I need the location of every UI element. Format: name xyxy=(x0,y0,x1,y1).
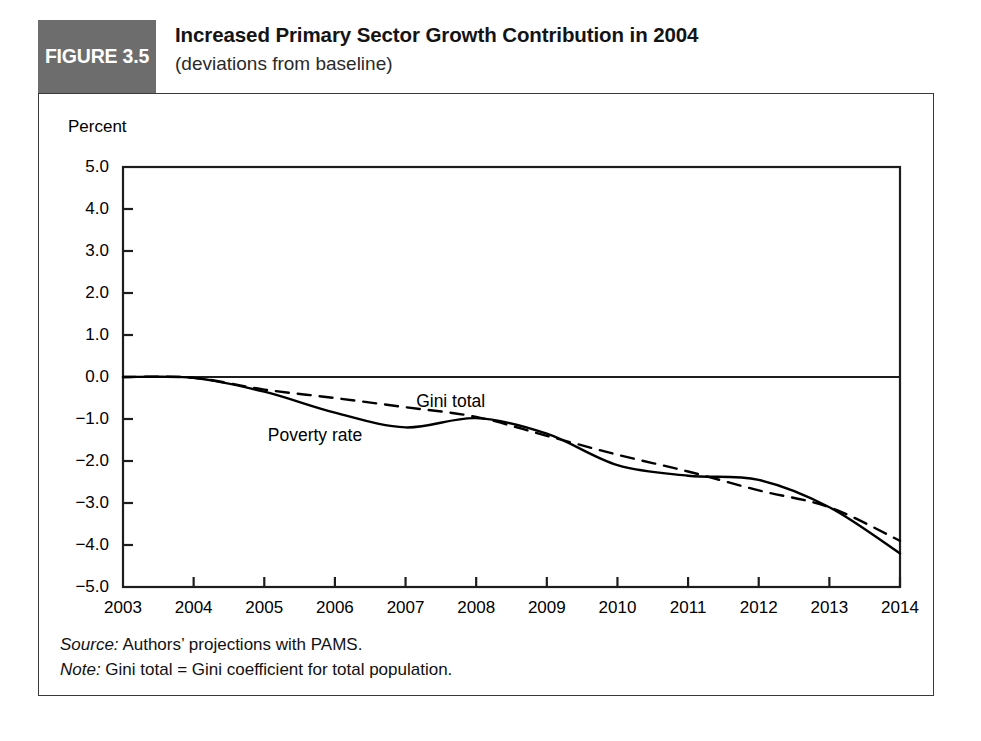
source-line: Source: Authors’ projections with PAMS. xyxy=(60,632,890,657)
x-tick-label: 2014 xyxy=(881,598,919,617)
source-text: Authors’ projections with PAMS. xyxy=(119,635,363,654)
x-tick-label: 2012 xyxy=(740,598,778,617)
series-line-gini-total xyxy=(123,377,900,541)
figure-footnotes: Source: Authors’ projections with PAMS. … xyxy=(60,632,890,682)
y-tick-label: −3.0 xyxy=(75,493,109,512)
y-tick-label: 4.0 xyxy=(85,199,109,218)
line-chart: 5.04.03.02.01.00.0−1.0−2.0−3.0−4.0−5.0 2… xyxy=(38,93,934,696)
x-tick-label: 2009 xyxy=(528,598,566,617)
x-tick-label: 2010 xyxy=(599,598,637,617)
series-label-gini-total: Gini total xyxy=(416,391,485,411)
x-tick-label: 2007 xyxy=(387,598,425,617)
x-axis-ticks: 2003200420052006200720082009201020112012… xyxy=(104,577,919,617)
note-line: Note: Gini total = Gini coefficient for … xyxy=(60,657,890,682)
y-tick-label: −4.0 xyxy=(75,535,109,554)
x-tick-label: 2006 xyxy=(316,598,354,617)
y-tick-label: 5.0 xyxy=(85,157,109,176)
series-line-poverty-rate xyxy=(123,377,900,554)
figure-header: FIGURE 3.5 Increased Primary Sector Grow… xyxy=(38,20,934,93)
x-tick-label: 2011 xyxy=(670,598,707,617)
y-tick-label: −5.0 xyxy=(75,577,109,596)
x-tick-label: 2004 xyxy=(175,598,213,617)
note-text: Gini total = Gini coefficient for total … xyxy=(101,660,453,679)
y-tick-label: 1.0 xyxy=(85,325,109,344)
y-tick-label: 3.0 xyxy=(85,241,109,260)
figure-title-group: Increased Primary Sector Growth Contribu… xyxy=(175,22,915,77)
x-tick-label: 2013 xyxy=(810,598,848,617)
x-tick-label: 2008 xyxy=(457,598,495,617)
figure-number-badge: FIGURE 3.5 xyxy=(38,20,156,93)
series-label-poverty-rate: Poverty rate xyxy=(268,425,362,445)
y-tick-label: 0.0 xyxy=(85,367,109,386)
note-keyword: Note: xyxy=(60,660,101,679)
source-keyword: Source: xyxy=(60,635,119,654)
x-tick-label: 2005 xyxy=(245,598,283,617)
figure-subtitle: (deviations from baseline) xyxy=(175,51,915,77)
x-tick-label: 2003 xyxy=(104,598,142,617)
y-tick-label: −2.0 xyxy=(75,451,109,470)
figure-root: FIGURE 3.5 Increased Primary Sector Grow… xyxy=(0,0,981,741)
data-series-group xyxy=(123,377,900,554)
y-tick-label: 2.0 xyxy=(85,283,109,302)
series-annotations: Poverty rateGini total xyxy=(268,391,485,445)
y-tick-label: −1.0 xyxy=(75,409,109,428)
figure-number-label: FIGURE 3.5 xyxy=(45,45,149,68)
figure-title: Increased Primary Sector Growth Contribu… xyxy=(175,22,915,48)
